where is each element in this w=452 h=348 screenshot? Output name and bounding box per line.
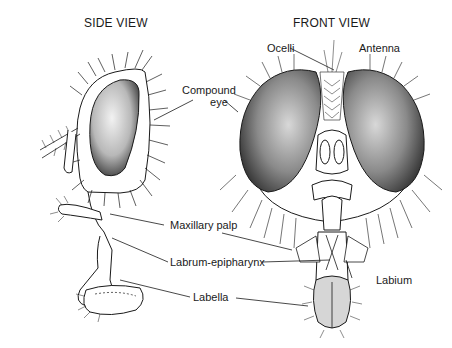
label-compound-eye-line1: Compound: [182, 84, 236, 96]
label-maxillary-palp: Maxillary palp: [170, 219, 237, 231]
front-view-title: FRONT VIEW: [293, 16, 370, 30]
label-compound-eye: Compound eye: [182, 84, 236, 108]
label-labium: Labium: [376, 274, 412, 286]
label-labrum-epipharynx: Labrum-epipharynx: [170, 256, 265, 268]
label-compound-eye-line2: eye: [182, 96, 236, 108]
label-ocelli: Ocelli: [267, 42, 295, 54]
front-view-drawing: [220, 40, 442, 338]
side-view-drawing: [40, 50, 170, 322]
side-view-title: SIDE VIEW: [84, 16, 148, 30]
label-antenna: Antenna: [359, 42, 400, 54]
label-labella: Labella: [193, 291, 228, 303]
